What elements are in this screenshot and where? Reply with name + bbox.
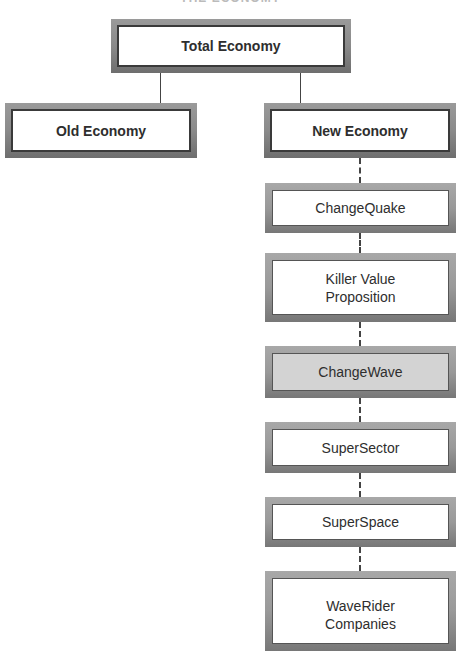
node-label: Old Economy (56, 123, 146, 139)
connector-dashed (359, 473, 361, 497)
node-supersector: SuperSector (265, 422, 456, 473)
connector-dashed (359, 398, 361, 422)
node-label: New Economy (312, 123, 408, 139)
node-label-line1: Killer Value (325, 270, 395, 288)
node-label-line2: Proposition (325, 288, 395, 306)
node-label: Total Economy (181, 38, 280, 54)
node-killer-value-proposition: Killer Value Proposition (265, 253, 456, 322)
node-waverider-companies: WaveRider Companies (265, 571, 456, 651)
node-new-economy: New Economy (264, 103, 456, 158)
diagram-title: THE ECONOMY (0, 0, 461, 5)
node-label: SuperSpace (322, 513, 399, 531)
node-label: ChangeWave (318, 363, 402, 381)
connector-dashed (359, 322, 361, 346)
node-label-line1: WaveRider (325, 597, 396, 615)
node-changewave: ChangeWave (265, 346, 456, 398)
node-total-economy: Total Economy (111, 19, 351, 73)
node-label: ChangeQuake (315, 199, 405, 217)
node-changequake: ChangeQuake (265, 183, 456, 233)
connector-dashed (359, 158, 361, 183)
connector-dashed (359, 547, 361, 571)
node-label: SuperSector (322, 439, 400, 457)
connector-dashed (359, 233, 361, 253)
connector-total-new (300, 73, 301, 103)
node-old-economy: Old Economy (5, 103, 197, 158)
node-label-line2: Companies (325, 615, 396, 633)
connector-total-old (160, 73, 161, 103)
node-superspace: SuperSpace (265, 497, 456, 547)
